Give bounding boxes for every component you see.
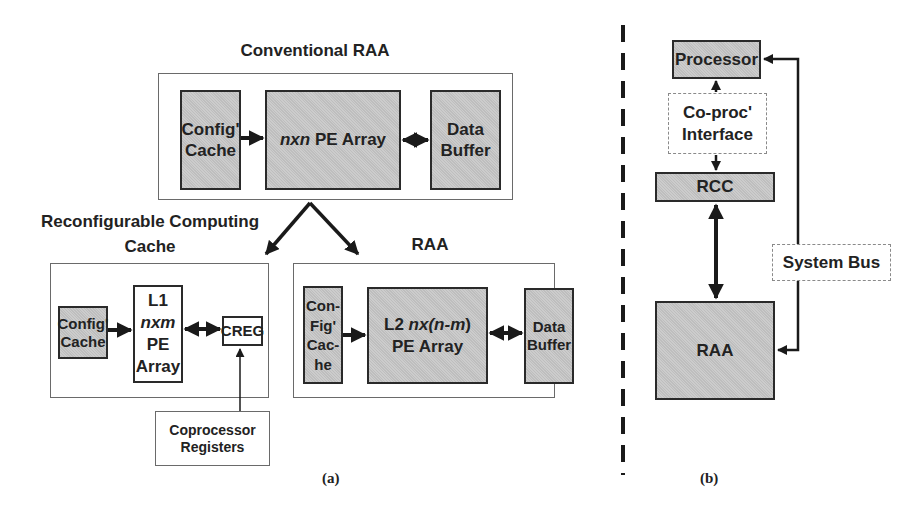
coproc-line2: Interface (682, 124, 753, 145)
coprocessor-registers-block: Coprocessor Registers (155, 411, 270, 466)
rcc-config-cache-line1: Config' (57, 315, 108, 333)
system-bus-block: System Bus (772, 244, 891, 281)
config-cache-line2: Cache (185, 140, 236, 161)
rcc-title: Reconfigurable Computing Cache (25, 210, 275, 259)
fig-label: Fig' (310, 316, 336, 336)
conventional-data-buffer-block: Data Buffer (430, 90, 501, 190)
system-bus-to-raa (778, 281, 798, 350)
config-cache-line1: Config' (182, 119, 240, 140)
coproc-interface-block: Co-proc' Interface (668, 93, 767, 154)
coproc-line1: Co-proc' (683, 102, 752, 123)
he-label: he (314, 355, 332, 375)
nxm-label: nxm (141, 312, 176, 334)
close-paren: ) (465, 315, 471, 334)
pe-label: PE (147, 334, 170, 356)
arrow-to-raa (310, 203, 358, 254)
nxn-label: nxn (280, 130, 310, 149)
system-bus-to-processor (764, 59, 798, 244)
rcc-config-cache-line2: Cache (60, 333, 105, 351)
processor-block: Processor (672, 40, 761, 79)
n-minus-m-label: n-m (434, 315, 465, 334)
creg-block: CREG (222, 316, 263, 346)
conventional-raa-title: Conventional RAA (215, 41, 415, 61)
array-label: Array (136, 356, 180, 378)
l2-label: L2 (384, 315, 409, 334)
raa-data-buffer-block: Data Buffer (524, 288, 574, 384)
data-buffer-line2: Buffer (440, 140, 490, 161)
panel-divider-dashed-line (621, 25, 625, 475)
raa-config-cache-block: Con- Fig' Cac- he (303, 286, 343, 384)
pe-array-label: PE Array (310, 130, 386, 149)
nxn-pe-array-block: nxn PE Array (265, 90, 401, 190)
coprocessor-line2: Registers (181, 439, 245, 456)
data-buffer-line1: Data (447, 119, 484, 140)
raa-data-line2: Buffer (527, 336, 571, 354)
conventional-config-cache-block: Config' Cache (180, 90, 241, 190)
coprocessor-line1: Coprocessor (169, 422, 255, 439)
l2-pe-array-block: L2 nx(n-m) PE Array (367, 287, 488, 384)
raa-title: RAA (390, 235, 470, 255)
rcc-title-line1: Reconfigurable Computing (25, 210, 275, 235)
rcc-config-cache-block: Config' Cache (58, 306, 108, 359)
cac-label: Cac- (307, 335, 340, 355)
raa-data-line1: Data (533, 318, 566, 336)
con-label: Con- (306, 296, 340, 316)
rcc-title-line2: Cache (25, 235, 275, 260)
l1-nxm-pe-array-block: L1 nxm PE Array (133, 285, 183, 383)
rcc-block: RCC (655, 172, 775, 202)
caption-b: (b) (700, 470, 718, 487)
n-label: nx( (409, 315, 435, 334)
raa-block: RAA (655, 301, 775, 400)
caption-a: (a) (322, 470, 340, 487)
l2-pe-array-label: PE Array (392, 336, 463, 357)
l1-label: L1 (148, 290, 168, 312)
